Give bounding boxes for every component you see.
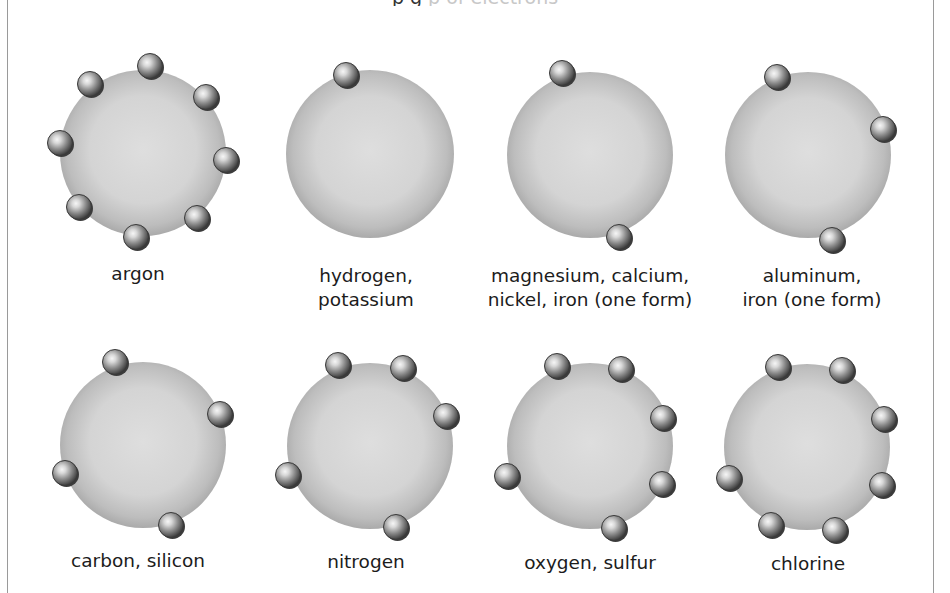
atom-label-argon: argon [8,262,268,286]
atom-sphere [724,364,890,530]
atom-label-line: aluminum, [682,264,942,288]
atom-label-line: magnesium, calcium, [460,264,720,288]
atom-sphere [507,72,673,238]
atom-nitrogen [276,353,461,542]
atom-label-line: argon [8,262,268,286]
atom-label-line: iron (one form) [682,288,942,312]
atom-label-aluminum-iron: aluminum,iron (one form) [682,264,942,312]
atom-magnesium-calcium-nickel-iron [507,61,673,252]
atom-sphere [287,363,453,529]
atom-chlorine [717,355,899,545]
atom-label-carbon-silicon: carbon, silicon [8,549,268,573]
electron-icon [607,225,634,252]
atom-label-line: potassium [236,288,496,312]
atom-argon [48,54,241,252]
atom-label-line: hydrogen, [236,264,496,288]
atom-label-line: chlorine [678,552,938,576]
atom-label-nitrogen: nitrogen [236,550,496,574]
electron-icon [823,518,850,545]
atom-hydrogen-potassium [286,63,454,239]
atom-label-chlorine: chlorine [678,552,938,576]
electron-icon [78,72,105,99]
electron-icon [185,206,212,233]
atom-sphere [725,72,891,238]
atom-oxygen-sulfur [495,354,678,543]
atom-aluminum-iron [725,65,897,255]
atom-label-line: nickel, iron (one form) [460,288,720,312]
atom-label-line: carbon, silicon [8,549,268,573]
atom-sphere [60,362,226,528]
atom-label-line: nitrogen [236,550,496,574]
atom-carbon-silicon [53,350,235,540]
atom-label-hydrogen-potassium: hydrogen,potassium [236,264,496,312]
atom-sphere [286,70,454,238]
atom-label-magnesium-calcium-nickel-iron: magnesium, calcium,nickel, iron (one for… [460,264,720,312]
electron-icon [820,228,847,255]
atom-sphere [507,363,673,529]
